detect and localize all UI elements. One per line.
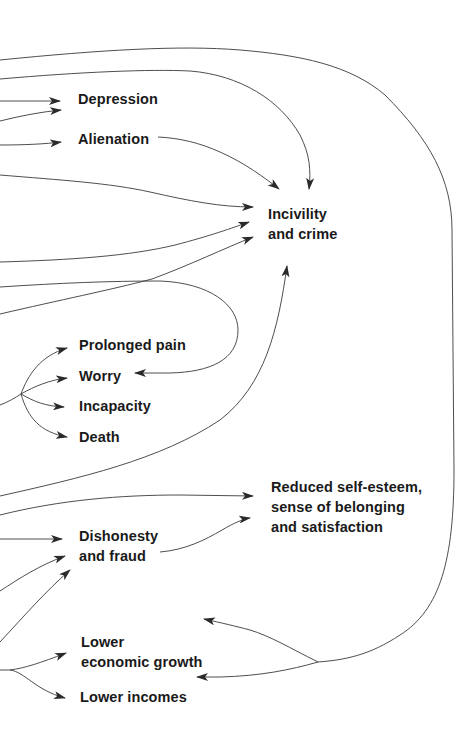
node-lower-incomes: Lower incomes — [80, 689, 187, 705]
edge-top-to-incivility — [0, 70, 310, 189]
nodes: Depression Alienation Incivility and cri… — [78, 91, 426, 705]
edge-to-prolonged-pain — [21, 348, 67, 394]
edge-to-worry — [21, 378, 67, 394]
node-depression: Depression — [78, 91, 158, 107]
node-incapacity: Incapacity — [79, 398, 151, 414]
node-lower-economic-growth: Lower economic growth — [81, 634, 203, 670]
node-alienation: Alienation — [78, 131, 149, 147]
edge-to-depression-2 — [0, 110, 61, 121]
edge-to-incivility-2 — [0, 222, 249, 262]
node-prolonged-pain: Prolonged pain — [79, 337, 186, 353]
edge-loop-to-lower-incomes — [197, 662, 318, 677]
edges — [0, 48, 454, 698]
edge-to-dishonesty-3 — [0, 570, 70, 642]
cause-effect-diagram: Depression Alienation Incivility and cri… — [0, 0, 476, 740]
edge-bottom-to-incivility — [0, 266, 287, 496]
node-incivility-and-crime: Incivility and crime — [268, 206, 337, 242]
node-worry: Worry — [79, 368, 121, 384]
edge-loop-to-worry — [0, 281, 238, 373]
node-dishonesty-and-fraud: Dishonesty and fraud — [79, 528, 162, 564]
edge-loop-to-economic-growth — [204, 619, 318, 662]
edge-to-incivility-1 — [0, 175, 253, 207]
edge-alienation-to-incivility — [158, 137, 279, 189]
edge-to-death — [21, 394, 67, 437]
edge-to-alienation — [0, 142, 61, 145]
edge-to-economic-growth — [0, 653, 66, 670]
edge-dishonesty-to-self-esteem — [160, 518, 250, 552]
edge-to-self-esteem — [0, 495, 253, 515]
node-reduced-self-esteem: Reduced self-esteem, sense of belonging … — [271, 479, 426, 535]
edge-to-dishonesty-2 — [0, 556, 65, 591]
edge-outer-loop — [0, 48, 454, 662]
edge-fan-stem — [0, 394, 21, 405]
edge-to-incapacity — [21, 394, 64, 407]
node-death: Death — [79, 429, 120, 445]
edge-to-incivility-3 — [0, 237, 253, 314]
edge-to-lower-incomes — [10, 670, 65, 698]
